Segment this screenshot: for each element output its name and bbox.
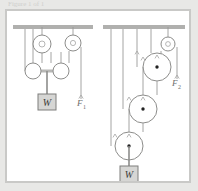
movable-pulley-left	[25, 63, 41, 79]
fixed-pulley-top-hub	[166, 42, 171, 47]
figure-root: Figure 1 of 1	[0, 0, 198, 191]
panel-first-pulley-system: W F 1	[7, 11, 99, 181]
ceiling-bar	[103, 25, 185, 29]
second-pulley-system-stage: W F 2	[99, 11, 189, 181]
movable-pulley-upper-axle	[155, 65, 158, 68]
fixed-pulley-b-hub	[70, 40, 75, 45]
force-label-f2: F	[171, 78, 178, 88]
figure-frame: W F 1	[5, 9, 191, 183]
force-label-f1: F	[76, 98, 83, 108]
panel-second-pulley-system: W F 2	[99, 11, 189, 181]
movable-pulley-right	[53, 63, 69, 79]
force-label-f1-subscript: 1	[83, 104, 86, 110]
fixed-pulley-a-hub	[39, 41, 45, 47]
tension-arrow-icon	[141, 57, 145, 60]
figure-caption: Figure 1 of 1	[8, 0, 88, 9]
ceiling-bar	[13, 25, 93, 29]
tension-arrow-icon	[127, 97, 131, 100]
movable-pulley-middle-axle	[141, 107, 144, 110]
tension-arrow-icon	[113, 134, 117, 137]
first-pulley-system-stage: W F 1	[7, 11, 99, 181]
force-label-f2-subscript: 2	[178, 84, 181, 90]
